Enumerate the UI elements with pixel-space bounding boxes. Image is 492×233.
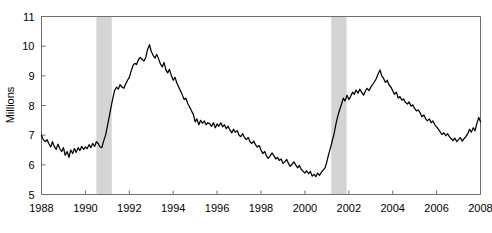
y-tick-label-9: 9 — [28, 70, 34, 82]
y-tick-label-5: 5 — [28, 189, 34, 201]
recession-1990-1991 — [96, 17, 111, 195]
y-axis-title: Millions — [4, 86, 16, 123]
unemployment-line-chart: 567891011 198819901992199419961998200020… — [0, 0, 492, 233]
x-tick-label-1994: 1994 — [161, 202, 185, 214]
recession-2001 — [331, 17, 346, 195]
y-tick-label-6: 6 — [28, 159, 34, 171]
y-tick-label-7: 7 — [28, 129, 34, 141]
x-tick-label-1990: 1990 — [73, 202, 97, 214]
y-tick-label-10: 10 — [22, 40, 34, 52]
x-tick-label-2000: 2000 — [293, 202, 317, 214]
chart-container: 567891011 198819901992199419961998200020… — [0, 0, 492, 233]
x-tick-label-1998: 1998 — [249, 202, 273, 214]
chart-background — [0, 0, 492, 233]
y-tick-label-11: 11 — [23, 11, 34, 23]
y-tick-label-8: 8 — [28, 100, 34, 112]
x-tick-label-2006: 2006 — [424, 202, 448, 214]
x-tick-label-2008: 2008 — [468, 202, 492, 214]
x-tick-label-2004: 2004 — [380, 202, 404, 214]
x-tick-label-1996: 1996 — [205, 202, 229, 214]
x-tick-label-1992: 1992 — [117, 202, 141, 214]
x-tick-label-2002: 2002 — [337, 202, 361, 214]
x-tick-label-1988: 1988 — [29, 202, 53, 214]
